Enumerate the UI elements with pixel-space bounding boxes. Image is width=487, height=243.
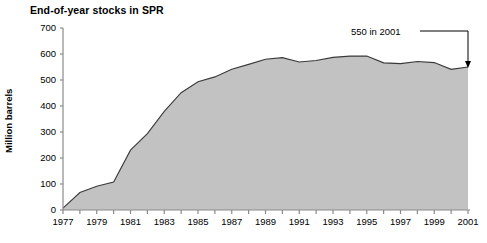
annotation-leader-line	[420, 31, 468, 62]
chart-plot-area	[0, 0, 487, 243]
y-axis-tick-label: 300	[22, 127, 56, 137]
area-series	[63, 56, 468, 210]
y-axis-title: Million barrels	[2, 66, 16, 176]
chart-container: End-of-year stocks in SPR Million barrel…	[0, 0, 487, 243]
x-axis-tick-label: 2001	[448, 216, 487, 227]
y-axis-tick-label: 700	[22, 23, 56, 33]
y-axis-tick-label: 100	[22, 179, 56, 189]
y-axis-tick-label: 500	[22, 75, 56, 85]
y-axis-tick-label: 600	[22, 49, 56, 59]
y-axis-tick-label: 0	[22, 205, 56, 215]
y-axis-tick-label: 400	[22, 101, 56, 111]
area-fill-path	[63, 56, 468, 210]
x-axis-ticks	[63, 210, 468, 214]
y-axis-tick-label: 200	[22, 153, 56, 163]
annotation-label: 550 in 2001	[351, 26, 401, 37]
y-axis-tick-labels: 0100200300400500600700	[22, 0, 56, 243]
